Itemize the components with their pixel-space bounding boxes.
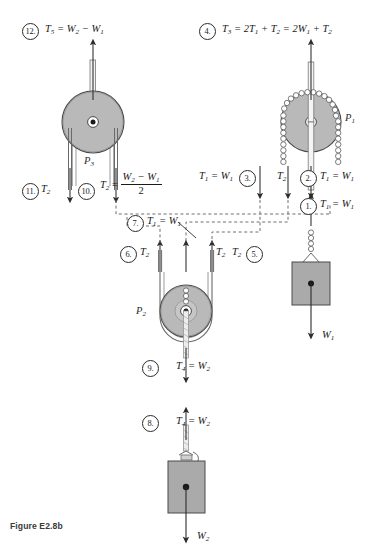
callout-number-9[interactable]: 9. bbox=[142, 360, 159, 377]
callout-number-12[interactable]: 12. bbox=[22, 23, 39, 40]
force-label-11: T2 bbox=[41, 184, 50, 196]
rope-texture-above-w2 bbox=[183, 430, 188, 451]
force-label-2: T1 = W1 bbox=[320, 171, 354, 183]
callout-number-5[interactable]: 5. bbox=[246, 246, 263, 263]
force-label-1: T1 = W1 bbox=[320, 199, 354, 211]
fraction-denominator: 2 bbox=[121, 185, 162, 197]
fraction-numerator: W2 − W1 bbox=[121, 171, 162, 185]
callout-number-6[interactable]: 6. bbox=[120, 246, 137, 263]
figure-caption: Figure E2.8b bbox=[10, 521, 63, 531]
force-label-3: T1 = W1 bbox=[199, 171, 233, 183]
pulley-label-p3: P3 bbox=[84, 155, 94, 168]
figure-canvas: 12. 4. 11. 10. 3. 2. 1. 7. 6. 5. 9. 8. T… bbox=[0, 0, 391, 560]
fraction-lhs: T2 bbox=[100, 179, 109, 190]
force-label-9: T4 = W2 bbox=[176, 361, 210, 373]
force-label-6: T2 bbox=[140, 247, 149, 259]
diagram-vectors bbox=[0, 0, 391, 560]
inline-label-t2-p1-left: T2 bbox=[277, 171, 286, 183]
force-label-5: T2 bbox=[232, 247, 241, 259]
pulley-p3-assembly bbox=[62, 60, 124, 190]
callout-number-2[interactable]: 2. bbox=[300, 170, 317, 187]
force-arrows bbox=[70, 42, 311, 440]
force-label-10: T2 = W2 − W1 2 bbox=[100, 172, 162, 198]
callout-number-4[interactable]: 4. bbox=[199, 23, 216, 40]
force-label-7: T1 = W1 bbox=[147, 216, 181, 228]
pulley-label-p1: P1 bbox=[345, 112, 355, 125]
fraction-equals: = bbox=[112, 179, 118, 190]
chain-left-p1 bbox=[281, 113, 286, 165]
force-label-8: T4 = W2 bbox=[176, 416, 210, 428]
callout-number-3[interactable]: 3. bbox=[239, 170, 256, 187]
weight-block-w1 bbox=[292, 230, 330, 336]
callout-number-10[interactable]: 10. bbox=[78, 183, 95, 200]
weight-label-w1: W1 bbox=[322, 330, 334, 342]
inline-label-t2-p2-right: T2 bbox=[216, 247, 225, 259]
chain-right-p1 bbox=[336, 119, 341, 165]
callout-number-1[interactable]: 1. bbox=[300, 198, 317, 215]
force-label-4: T3 = 2T1 + T2 = 2W1 + T2 bbox=[222, 24, 332, 36]
callout-number-11[interactable]: 11. bbox=[22, 183, 39, 200]
fraction-10: W2 − W1 2 bbox=[121, 171, 162, 197]
chain-above-p2 bbox=[183, 288, 188, 304]
weight-label-w2: W2 bbox=[197, 531, 209, 543]
force-label-12: T5 = W2 − W1 bbox=[45, 24, 104, 36]
callout-number-8[interactable]: 8. bbox=[142, 415, 159, 432]
callout-number-7[interactable]: 7. bbox=[127, 215, 144, 232]
weight-block-w2 bbox=[168, 451, 205, 540]
chain-over-p1 bbox=[282, 90, 339, 119]
pulley-label-p2: P2 bbox=[136, 305, 146, 318]
rope-texture-below-p2 bbox=[183, 316, 188, 355]
